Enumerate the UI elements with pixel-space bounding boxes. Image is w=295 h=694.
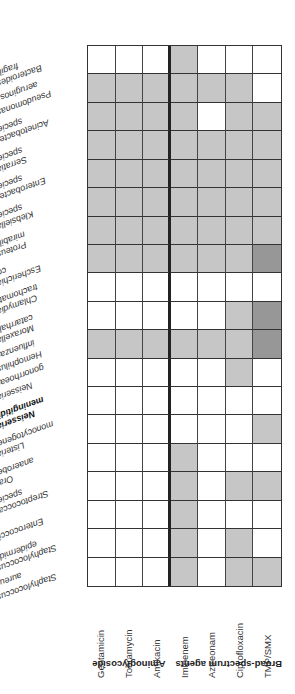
coverage-cell — [198, 529, 226, 557]
coverage-cell — [116, 273, 144, 301]
coverage-cell — [171, 558, 199, 586]
coverage-cell — [116, 131, 144, 159]
coverage-cell — [226, 245, 254, 273]
coverage-cell — [88, 103, 116, 131]
coverage-cell — [253, 273, 281, 301]
coverage-cell — [116, 217, 144, 245]
coverage-cell — [171, 415, 199, 443]
coverage-cell — [143, 444, 171, 472]
coverage-cell — [88, 160, 116, 188]
coverage-cell — [116, 529, 144, 557]
coverage-cell — [226, 415, 254, 443]
coverage-cell — [253, 103, 281, 131]
coverage-cell — [198, 217, 226, 245]
coverage-cell — [116, 46, 144, 74]
coverage-cell — [88, 472, 116, 500]
coverage-cell — [253, 330, 281, 358]
coverage-cell — [253, 472, 281, 500]
coverage-cell — [88, 415, 116, 443]
coverage-cell — [226, 302, 254, 330]
coverage-cell — [116, 387, 144, 415]
coverage-cell — [143, 160, 171, 188]
coverage-cell — [143, 359, 171, 387]
coverage-cell — [116, 245, 144, 273]
coverage-cell — [116, 558, 144, 586]
coverage-cell — [226, 273, 254, 301]
coverage-cell — [143, 46, 171, 74]
coverage-cell — [88, 359, 116, 387]
coverage-cell — [198, 415, 226, 443]
coverage-cell — [88, 74, 116, 102]
coverage-cell — [226, 472, 254, 500]
coverage-cell — [88, 529, 116, 557]
coverage-cell — [198, 245, 226, 273]
coverage-cell — [226, 103, 254, 131]
coverage-cell — [88, 188, 116, 216]
coverage-grid — [87, 45, 282, 587]
coverage-cell — [116, 188, 144, 216]
coverage-cell — [171, 245, 199, 273]
coverage-cell — [88, 273, 116, 301]
coverage-cell — [88, 501, 116, 529]
footnote-marker: a — [0, 537, 1, 544]
coverage-cell — [143, 558, 171, 586]
coverage-cell — [88, 387, 116, 415]
coverage-cell — [198, 74, 226, 102]
coverage-cell — [253, 160, 281, 188]
coverage-cell — [143, 245, 171, 273]
coverage-cell — [171, 501, 199, 529]
coverage-cell — [253, 74, 281, 102]
column-header-text: Tobramycin — [123, 629, 134, 678]
coverage-cell — [226, 501, 254, 529]
coverage-cell — [253, 359, 281, 387]
coverage-cell — [116, 160, 144, 188]
coverage-cell — [171, 46, 199, 74]
coverage-cell — [171, 529, 199, 557]
coverage-cell — [226, 558, 254, 586]
coverage-cell — [253, 188, 281, 216]
coverage-cell — [116, 444, 144, 472]
coverage-cell — [171, 387, 199, 415]
coverage-cell — [171, 103, 199, 131]
coverage-cell — [171, 188, 199, 216]
coverage-cell — [253, 444, 281, 472]
column-header-text: TMP/SMX — [262, 635, 273, 678]
coverage-cell — [171, 302, 199, 330]
coverage-cell — [198, 103, 226, 131]
coverage-cell — [88, 131, 116, 159]
coverage-cell — [143, 74, 171, 102]
group-label-aminoglycoside: Aminoglycoside — [87, 659, 171, 670]
column-header-text: Gentamicin — [95, 630, 106, 678]
coverage-cell — [171, 472, 199, 500]
coverage-cell — [253, 415, 281, 443]
coverage-cell — [88, 302, 116, 330]
coverage-cell — [143, 415, 171, 443]
coverage-cell — [171, 217, 199, 245]
coverage-cell — [198, 330, 226, 358]
coverage-cell — [143, 188, 171, 216]
coverage-cell — [198, 387, 226, 415]
coverage-cell — [88, 46, 116, 74]
coverage-cell — [143, 273, 171, 301]
coverage-cell — [253, 302, 281, 330]
coverage-cell — [198, 359, 226, 387]
coverage-cell — [171, 74, 199, 102]
coverage-cell — [116, 359, 144, 387]
coverage-cell — [226, 359, 254, 387]
coverage-cell — [253, 46, 281, 74]
coverage-cell — [253, 558, 281, 586]
coverage-cell — [143, 501, 171, 529]
coverage-cell — [88, 245, 116, 273]
coverage-cell — [116, 103, 144, 131]
coverage-cell — [143, 103, 171, 131]
coverage-cell — [226, 74, 254, 102]
coverage-cell — [143, 131, 171, 159]
coverage-cell — [226, 188, 254, 216]
coverage-cell — [253, 245, 281, 273]
coverage-cell — [226, 529, 254, 557]
coverage-cell — [171, 359, 199, 387]
coverage-cell — [88, 330, 116, 358]
group-label-broad-spectrum: Broad-spectrum agents — [173, 659, 284, 670]
coverage-cell — [198, 302, 226, 330]
coverage-cell — [226, 131, 254, 159]
